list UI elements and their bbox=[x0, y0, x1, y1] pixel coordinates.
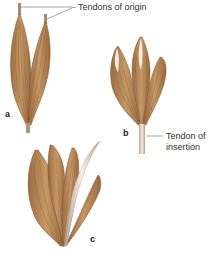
panel-label-b: b bbox=[123, 128, 129, 138]
tendons-of-origin-label: Tendons of origin bbox=[78, 2, 147, 13]
panel-c-muscle bbox=[28, 141, 101, 246]
origin-leader-lines bbox=[21, 7, 76, 19]
tendon-of-insertion-label-line1: Tendon of bbox=[166, 131, 206, 142]
tendon-insertion bbox=[139, 124, 145, 154]
panel-a-muscle bbox=[11, 3, 51, 133]
panel-b-muscle bbox=[111, 37, 167, 154]
panel-label-c: c bbox=[90, 234, 95, 244]
tendon-of-insertion-label-line2: insertion bbox=[166, 142, 200, 153]
tendon-origin-1 bbox=[18, 3, 21, 15]
panel-label-a: a bbox=[5, 109, 10, 119]
muscle-diagram bbox=[0, 0, 215, 258]
